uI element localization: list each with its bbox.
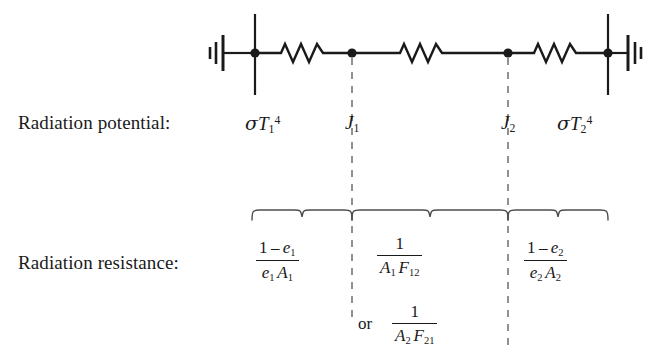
view-factor-symbol: F (399, 258, 409, 277)
area-subscript: 1 (288, 272, 293, 283)
numerator-space: 1 (377, 234, 422, 255)
denominator-space: A1 F12 (377, 255, 422, 279)
area-symbol-2: A (545, 263, 555, 282)
potential-label-j2: J2 (501, 112, 515, 136)
area-subscript-2: 2 (556, 272, 561, 283)
node-dot-j2 (503, 48, 512, 57)
view-factor-symbol-alt: F (414, 326, 424, 345)
circuit-diagram-canvas (0, 0, 651, 359)
resistance-surface-1: 1 – e1 e1 A1 (256, 238, 299, 285)
temperature-exponent: 4 (274, 114, 280, 127)
num-one-space: 1 (395, 234, 404, 253)
emissivity-subscript-2: 2 (558, 247, 563, 258)
resistor-1-symbol (255, 44, 352, 62)
area-symbol: A (277, 263, 287, 282)
radiation-resistance-caption: Radiation resistance: (18, 252, 179, 274)
alternative-conjunction: or (358, 314, 372, 334)
area-symbol-space-alt: A (395, 326, 405, 345)
denominator-surface-2: e2 A2 (524, 260, 567, 284)
numerator-surface-2: 1 – e2 (524, 238, 567, 260)
radiosity-subscript-j2: 2 (509, 122, 515, 135)
numerator-surface-1: 1 – e1 (256, 238, 299, 260)
resistor-3-symbol (508, 44, 608, 62)
radiation-network-figure: Radiation potential: Radiation resistanc… (0, 0, 651, 359)
minus-sign-2: – (539, 238, 548, 257)
node-dot-left (250, 48, 259, 57)
resistance-surface-2: 1 – e2 e2 A2 (524, 238, 567, 285)
numerator-space-alt: 1 (392, 302, 437, 323)
brace-1 (252, 210, 352, 220)
potential-label-surface1: σT14 (245, 112, 280, 137)
area-subscript-space: 1 (390, 267, 395, 278)
brace-2 (352, 210, 508, 220)
denominator-space-alt: A2 F21 (392, 323, 437, 347)
temperature-symbol-2: T (570, 113, 581, 134)
emissivity-subscript: 1 (290, 247, 295, 258)
potential-label-j1: J1 (345, 112, 359, 136)
potential-label-surface2: σT24 (557, 112, 592, 137)
brace-3 (508, 210, 608, 220)
node-dot-right (603, 48, 612, 57)
emissivity-subscript-den-2: 2 (537, 272, 542, 283)
num-one-space-alt: 1 (410, 302, 419, 321)
resistance-space-alt: 1 A2 F21 (392, 302, 437, 347)
area-subscript-space-alt: 2 (405, 335, 410, 346)
node-dot-j1 (347, 48, 356, 57)
radiation-potential-caption: Radiation potential: (18, 112, 170, 134)
resistor-2-symbol (352, 44, 508, 62)
radiosity-subscript-j1: 1 (353, 122, 359, 135)
sigma-symbol-2: σ (557, 112, 570, 134)
view-factor-subscript-alt: 21 (424, 335, 435, 346)
denominator-surface-1: e1 A1 (256, 260, 299, 284)
sigma-symbol: σ (245, 112, 258, 134)
resistance-space: 1 A1 F12 (377, 234, 422, 279)
temperature-symbol: T (258, 113, 269, 134)
num-one: 1 (259, 238, 268, 257)
area-symbol-space: A (380, 258, 390, 277)
brace-group (252, 210, 608, 220)
ground-left-icon (210, 35, 255, 71)
ground-right-icon (608, 35, 641, 71)
num-one-2: 1 (527, 238, 536, 257)
emissivity-subscript-den: 1 (269, 272, 274, 283)
temperature-exponent-2: 4 (586, 114, 592, 127)
view-factor-subscript: 12 (409, 267, 420, 278)
minus-sign: – (271, 238, 280, 257)
